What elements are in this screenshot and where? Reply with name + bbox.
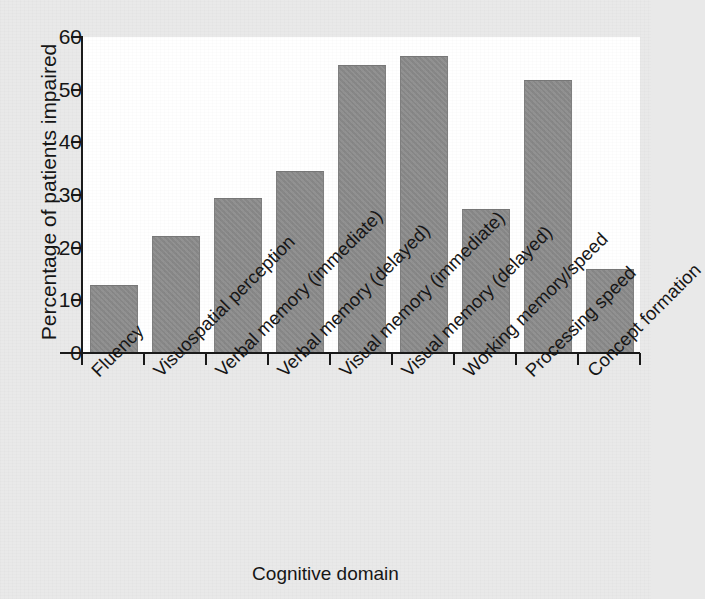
x-axis-tick [143,353,145,365]
x-axis-tick [391,353,393,365]
x-axis-tick [515,353,517,365]
x-axis-tick [329,353,331,365]
x-axis-tick [577,353,579,365]
x-axis-tick [205,353,207,365]
x-axis-title: Cognitive domain [0,563,651,585]
x-axis-tick [639,353,641,365]
y-axis-title: Percentage of patients impaired [37,27,61,357]
x-axis-tick [453,353,455,365]
x-axis-tick [267,353,269,365]
